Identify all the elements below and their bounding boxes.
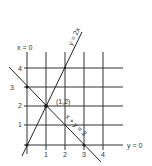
intersection-label: (1,2) [56, 98, 70, 106]
y-tick-4: 4 [18, 65, 22, 72]
intersection-point [44, 104, 48, 108]
x-tick-1: 1 [44, 151, 48, 158]
y-intercept-point [25, 85, 28, 88]
y-tick-2: 2 [18, 102, 22, 109]
horizontal-axis-label: y = 0 [127, 142, 142, 150]
vertical-axis-label: x = 0 [17, 44, 32, 51]
x-intercept-point [82, 143, 85, 146]
x-tick-4: 4 [101, 151, 105, 158]
point-2-4 [64, 67, 66, 69]
line-x-plus-y-equals-3 [9, 67, 101, 162]
x-tick-2: 2 [63, 151, 67, 158]
x-tick-3: 3 [82, 151, 86, 158]
y-tick-1: 1 [18, 121, 22, 128]
graph: x = 0 y = 0 1 2 3 4 1 2 3 4 (1,2) y = 2x… [0, 0, 152, 166]
y-tick-3: 3 [10, 84, 14, 91]
origin-point [25, 143, 28, 146]
